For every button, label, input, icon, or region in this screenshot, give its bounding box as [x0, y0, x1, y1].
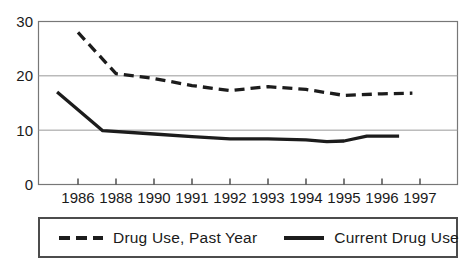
x-axis-label: 1990	[137, 189, 170, 206]
legend-label-past-year: Drug Use, Past Year	[113, 229, 257, 247]
series-line-drug-use-past-year	[78, 32, 412, 95]
y-axis-label: 10	[16, 122, 33, 139]
x-axis-label: 1991	[175, 189, 208, 206]
legend-item-past-year: Drug Use, Past Year	[58, 229, 257, 247]
x-axis-label: 1994	[289, 189, 322, 206]
y-axis-label: 30	[16, 13, 33, 30]
series-line-current-drug-use	[57, 92, 399, 142]
drug-use-trend-figure: 0102030198619881990199119921993199419951…	[0, 0, 476, 269]
chart-legend: Drug Use, Past Year Current Drug Use	[38, 217, 458, 258]
y-axis-label: 20	[16, 67, 33, 84]
x-axis-label: 1988	[99, 189, 132, 206]
plot-border	[39, 22, 458, 185]
x-axis-label: 1986	[61, 189, 94, 206]
x-axis-label: 1996	[365, 189, 398, 206]
legend-item-current-use: Current Drug Use	[283, 229, 459, 247]
x-axis-label: 1997	[403, 189, 436, 206]
x-axis-label: 1995	[327, 189, 360, 206]
x-axis-label: 1993	[251, 189, 284, 206]
solid-line-sample-icon	[283, 234, 325, 242]
dashed-line-sample-icon	[58, 234, 104, 242]
x-axis-label: 1992	[213, 189, 246, 206]
y-axis-label: 0	[25, 176, 33, 193]
legend-label-current-use: Current Drug Use	[334, 229, 459, 247]
